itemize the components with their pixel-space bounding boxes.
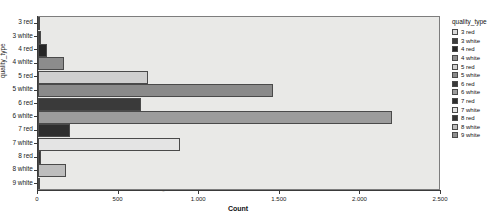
y-axis-tick-label: 6 white (0, 113, 33, 120)
legend-swatch (452, 81, 458, 87)
x-axis-line (37, 190, 441, 191)
legend-item[interactable]: 8 white (452, 123, 504, 132)
legend-swatch (452, 64, 458, 70)
bar[interactable] (38, 17, 40, 30)
legend-swatch (452, 55, 458, 61)
y-axis-tick-label: 7 red (0, 126, 33, 133)
x-axis-title: Count (228, 205, 248, 212)
x-axis-tick-label: 500 (113, 196, 123, 202)
legend-swatch (452, 46, 458, 52)
bar-row (38, 111, 440, 124)
legend-item[interactable]: 7 red (452, 97, 504, 106)
bar[interactable] (38, 124, 70, 137)
y-axis-tick-mark (34, 143, 37, 144)
bar[interactable] (38, 138, 180, 151)
x-axis-tick-mark (37, 190, 38, 194)
legend-item[interactable]: 3 white (452, 37, 504, 46)
x-axis-tick-label: 2.000 (352, 196, 367, 202)
x-axis-tick-mark (359, 190, 360, 194)
bar-chart: dia, is 0 red and corresponding the valu… (0, 0, 504, 220)
legend-label: 5 red (461, 64, 475, 70)
y-axis-tick-label: 3 red (0, 19, 33, 26)
legend-label: 4 white (461, 55, 480, 61)
legend-label: 8 red (461, 115, 475, 121)
legend-item[interactable]: 8 red (452, 114, 504, 123)
y-axis-tick-mark (34, 157, 37, 158)
legend-items: 3 red3 white4 red4 white5 red5 white6 re… (452, 28, 504, 140)
legend-item[interactable]: 5 red (452, 62, 504, 71)
bar-row (38, 178, 440, 190)
legend-label: 6 red (461, 81, 475, 87)
legend-swatch (452, 89, 458, 95)
legend-label: 8 white (461, 124, 480, 130)
y-axis-tick-label: 9 white (0, 180, 33, 187)
legend-item[interactable]: 5 white (452, 71, 504, 80)
bar[interactable] (38, 151, 41, 164)
legend-title: quality_type (452, 18, 504, 25)
y-axis-tick-label: 3 white (0, 33, 33, 40)
y-axis-tick-mark (34, 103, 37, 104)
y-axis-tick-mark (34, 76, 37, 77)
y-axis-tick-mark (34, 130, 37, 131)
y-axis-tick-label: 8 white (0, 166, 33, 173)
plot-area (37, 16, 440, 190)
bar[interactable] (38, 57, 64, 70)
y-axis-tick-mark (34, 116, 37, 117)
legend-swatch (452, 132, 458, 138)
x-axis-tick-label: 2.500 (432, 196, 447, 202)
bar-row (38, 98, 440, 111)
y-axis-tick-label: 6 red (0, 100, 33, 107)
y-axis-tick-mark (34, 23, 37, 24)
legend-swatch (452, 115, 458, 121)
bar[interactable] (38, 71, 148, 84)
bar[interactable] (38, 84, 273, 97)
legend-label: 3 white (461, 38, 480, 44)
legend-item[interactable]: 9 white (452, 131, 504, 140)
bar-row (38, 84, 440, 97)
legend-swatch (452, 124, 458, 130)
bar[interactable] (38, 111, 392, 124)
x-axis-tick-label: 1.500 (271, 196, 286, 202)
y-axis-tick-mark (34, 63, 37, 64)
legend-item[interactable]: 6 red (452, 80, 504, 89)
legend-swatch (452, 107, 458, 113)
legend-swatch (452, 98, 458, 104)
bar[interactable] (38, 98, 141, 111)
bar-row (38, 151, 440, 164)
legend-label: 3 red (461, 29, 475, 35)
bar[interactable] (38, 164, 66, 177)
y-axis-tick-mark (34, 36, 37, 37)
y-axis-tick-label: 8 red (0, 153, 33, 160)
bar-row (38, 71, 440, 84)
legend-item[interactable]: 4 red (452, 45, 504, 54)
bar-row (38, 57, 440, 70)
legend-item[interactable]: 7 white (452, 105, 504, 114)
legend: quality_type 3 red3 white4 red4 white5 r… (452, 18, 504, 140)
x-axis-tick-mark (198, 190, 199, 194)
x-axis-tick-mark (118, 190, 119, 194)
y-axis-tick-mark (34, 183, 37, 184)
bar-row (38, 164, 440, 177)
bar[interactable] (38, 31, 41, 44)
bar-row (38, 17, 440, 30)
legend-swatch (452, 72, 458, 78)
legend-swatch (452, 38, 458, 44)
legend-item[interactable]: 3 red (452, 28, 504, 37)
legend-item[interactable]: 6 white (452, 88, 504, 97)
legend-label: 5 white (461, 72, 480, 78)
y-axis-title: quality_type (0, 43, 6, 78)
bar[interactable] (38, 44, 47, 57)
y-axis-tick-label: 5 white (0, 86, 33, 93)
bar[interactable] (38, 178, 40, 190)
bar-row (38, 138, 440, 151)
legend-label: 7 white (461, 107, 480, 113)
y-axis-tick-mark (34, 49, 37, 50)
x-axis-tick-label: 0 (35, 196, 38, 202)
x-axis-tick-label: 1.000 (191, 196, 206, 202)
y-axis-tick-mark (34, 170, 37, 171)
y-axis-tick-label: 7 white (0, 140, 33, 147)
legend-label: 9 white (461, 132, 480, 138)
legend-item[interactable]: 4 white (452, 54, 504, 63)
legend-swatch (452, 29, 458, 35)
legend-label: 6 white (461, 89, 480, 95)
